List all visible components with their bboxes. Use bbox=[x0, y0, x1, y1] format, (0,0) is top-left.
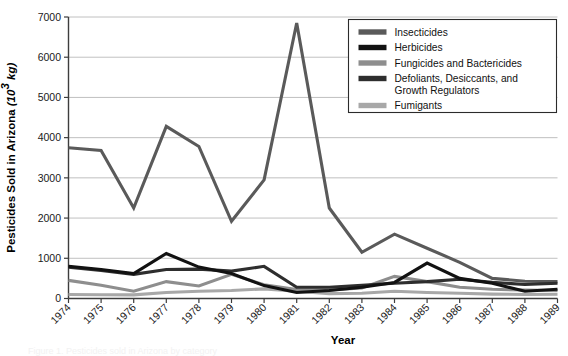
pesticides-line-chart: 01000200030004000500060007000 1974197519… bbox=[0, 0, 568, 356]
y-tick-label: 4000 bbox=[38, 131, 62, 143]
x-tick-label: 1983 bbox=[341, 301, 366, 326]
legend-label: Herbicides bbox=[395, 42, 443, 53]
legend-label: Defoliants, Desiccants, and bbox=[395, 73, 519, 84]
y-axis-title-units: (10 bbox=[5, 89, 17, 106]
x-tick-label: 1974 bbox=[48, 301, 73, 326]
x-tick-label: 1979 bbox=[211, 301, 236, 326]
x-tick-group: 1974197519761977197819791980198119821983… bbox=[48, 299, 562, 326]
x-tick-label: 1986 bbox=[439, 301, 464, 326]
y-tick-label: 0 bbox=[55, 292, 61, 304]
x-tick-label: 1984 bbox=[374, 301, 399, 326]
figure-caption-ghost: Figure 1. Pesticides sold in Arizona by … bbox=[28, 346, 217, 356]
x-tick-label: 1977 bbox=[146, 301, 171, 326]
y-axis-title: Pesticides Sold in Arizona (103 kg) bbox=[0, 63, 17, 253]
chart-legend: InsecticidesHerbicidesFungicides and Bac… bbox=[349, 20, 557, 113]
legend-label-continued: Growth Regulators bbox=[395, 85, 480, 96]
y-tick-label: 3000 bbox=[38, 172, 62, 184]
x-tick-label: 1985 bbox=[407, 301, 432, 326]
x-tick-label: 1988 bbox=[504, 301, 529, 326]
y-tick-label: 6000 bbox=[38, 51, 62, 63]
x-tick-label: 1982 bbox=[309, 301, 334, 326]
x-tick-label: 1976 bbox=[113, 301, 138, 326]
y-tick-label: 1000 bbox=[38, 252, 62, 264]
chart-figure: 01000200030004000500060007000 1974197519… bbox=[0, 0, 568, 356]
y-tick-label: 2000 bbox=[38, 212, 62, 224]
x-tick-label: 1975 bbox=[81, 301, 106, 326]
legend-label: Fungicides and Bactericides bbox=[395, 58, 522, 69]
x-axis-title: Year bbox=[331, 334, 356, 346]
x-tick-label: 1980 bbox=[244, 301, 269, 326]
legend-label: Fumigants bbox=[395, 100, 443, 111]
x-tick-label: 1978 bbox=[178, 301, 203, 326]
y-axis-title-main: Pesticides Sold in Arizona bbox=[5, 106, 17, 253]
x-tick-label: 1987 bbox=[472, 301, 497, 326]
legend-label: Insecticides bbox=[395, 27, 448, 38]
x-tick-label: 1989 bbox=[537, 301, 562, 326]
y-tick-group: 01000200030004000500060007000 bbox=[38, 11, 69, 305]
y-axis-title-units-tail: kg) bbox=[5, 63, 17, 84]
y-tick-label: 5000 bbox=[38, 91, 62, 103]
y-axis-title-text: Pesticides Sold in Arizona (103 kg) bbox=[0, 63, 17, 253]
x-tick-label: 1981 bbox=[276, 301, 301, 326]
y-tick-label: 7000 bbox=[38, 11, 62, 23]
